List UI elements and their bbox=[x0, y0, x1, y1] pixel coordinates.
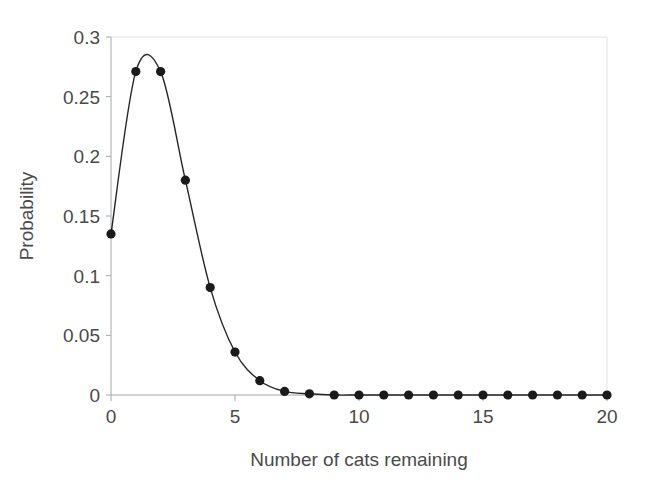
data-point bbox=[330, 390, 339, 399]
chart-background bbox=[0, 0, 652, 489]
y-tick-label: 0.2 bbox=[74, 146, 100, 167]
x-tick-label: 10 bbox=[348, 406, 369, 427]
y-tick-label: 0.1 bbox=[74, 266, 100, 287]
x-tick-label: 0 bbox=[106, 406, 117, 427]
data-point bbox=[379, 390, 388, 399]
data-point bbox=[478, 390, 487, 399]
x-tick-label: 5 bbox=[230, 406, 241, 427]
data-point bbox=[206, 283, 215, 292]
data-point bbox=[528, 390, 537, 399]
x-axis-title: Number of cats remaining bbox=[250, 449, 468, 470]
data-point bbox=[354, 390, 363, 399]
data-point bbox=[255, 376, 264, 385]
data-point bbox=[429, 390, 438, 399]
data-point bbox=[454, 390, 463, 399]
y-tick-label: 0.15 bbox=[63, 206, 100, 227]
data-point bbox=[106, 229, 115, 238]
data-point bbox=[503, 390, 512, 399]
probability-distribution-chart: 00.050.10.150.20.250.3 05101520 Number o… bbox=[0, 0, 652, 489]
y-tick-label: 0 bbox=[89, 385, 100, 406]
data-point bbox=[280, 387, 289, 396]
data-point bbox=[131, 67, 140, 76]
y-tick-label: 0.05 bbox=[63, 325, 100, 346]
data-point bbox=[181, 176, 190, 185]
data-point bbox=[553, 390, 562, 399]
x-tick-label: 15 bbox=[472, 406, 493, 427]
data-point bbox=[230, 347, 239, 356]
data-point bbox=[305, 389, 314, 398]
data-point bbox=[602, 390, 611, 399]
chart-figure: 00.050.10.150.20.250.3 05101520 Number o… bbox=[0, 0, 652, 489]
y-tick-label: 0.3 bbox=[74, 27, 100, 48]
data-point bbox=[156, 67, 165, 76]
y-tick-label: 0.25 bbox=[63, 87, 100, 108]
x-tick-label: 20 bbox=[596, 406, 617, 427]
data-point bbox=[578, 390, 587, 399]
y-axis-title: Probability bbox=[16, 171, 37, 260]
data-point bbox=[404, 390, 413, 399]
